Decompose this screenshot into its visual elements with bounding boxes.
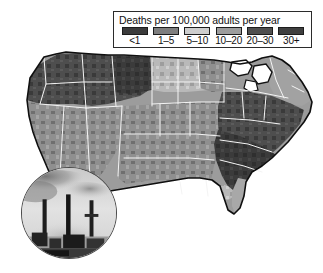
legend-swatch-2 [184,27,210,35]
plant-building-2 [49,238,61,248]
legend-label-4: 20–30 [247,35,274,46]
legend-label-2: 5–10 [187,35,208,46]
smokestack-photo-svg [22,168,116,258]
legend-class-0[interactable]: <1 [119,27,150,46]
region-northern-rockies [112,56,152,94]
legend-swatch-5 [278,27,304,35]
legend-swatch-1 [153,27,179,35]
legend-scale: <1 1–5 5–10 10–20 20–30 30+ [119,27,307,46]
smokestack-photo-inset [21,167,117,259]
legend-class-5[interactable]: 30+ [276,27,307,46]
smokestack-3 [90,200,94,237]
smokestack-2 [66,194,71,239]
plant-building-3 [63,235,85,249]
legend-class-2[interactable]: 5–10 [182,27,213,46]
legend-class-4[interactable]: 20–30 [244,27,275,46]
legend: Deaths per 100,000 adults per year <1 1–… [113,11,312,48]
legend-class-1[interactable]: 1–5 [150,27,181,46]
legend-class-3[interactable]: 10–20 [213,27,244,46]
legend-label-5: 30+ [283,35,299,46]
legend-title: Deaths per 100,000 adults per year [119,14,307,26]
plant-building-1 [32,233,48,247]
legend-label-0: <1 [129,35,140,46]
region-central-plains-texas [118,102,224,206]
legend-swatch-0 [122,27,148,35]
stack-gantry [85,214,99,217]
legend-swatch-3 [216,27,242,35]
legend-label-3: 10–20 [215,35,242,46]
legend-swatch-4 [247,27,273,35]
figure-root: Deaths per 100,000 adults per year <1 1–… [0,0,323,273]
smoke-plume-right [53,182,112,206]
legend-label-1: 1–5 [158,35,174,46]
